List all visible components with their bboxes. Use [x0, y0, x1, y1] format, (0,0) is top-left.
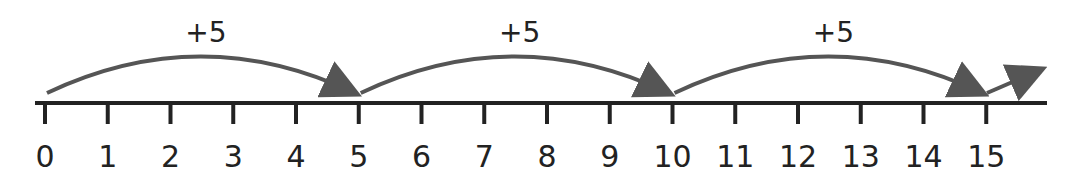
tick-label: 11 [716, 139, 754, 174]
jump-label: +5 [499, 16, 540, 49]
tick-label: 3 [224, 139, 243, 174]
tick-label: 15 [967, 139, 1005, 174]
tick-label: 14 [904, 139, 942, 174]
tick-label: 6 [412, 139, 431, 174]
continuation-arrow-icon [987, 70, 1040, 93]
jump-arrow-icon [361, 57, 669, 94]
jump-label: +5 [813, 16, 854, 49]
ticks [45, 103, 986, 124]
number-line-diagram: 0123456789101112131415 +5+5+5 [0, 0, 1074, 181]
tick-label: 4 [286, 139, 305, 174]
tick-labels: 0123456789101112131415 [35, 139, 1005, 174]
tick-label: 9 [600, 139, 619, 174]
jump-label: +5 [185, 16, 226, 49]
tick-label: 8 [537, 139, 556, 174]
jump-arrow-icon [47, 57, 355, 94]
jump-arcs [47, 57, 982, 94]
tick-label: 2 [161, 139, 180, 174]
tick-label: 5 [349, 139, 368, 174]
tick-label: 13 [842, 139, 880, 174]
jump-arrow-icon [675, 57, 983, 94]
tick-label: 10 [653, 139, 691, 174]
tick-label: 0 [35, 139, 54, 174]
tick-label: 1 [98, 139, 117, 174]
tick-label: 12 [779, 139, 817, 174]
tick-label: 7 [475, 139, 494, 174]
jump-labels: +5+5+5 [185, 16, 854, 49]
